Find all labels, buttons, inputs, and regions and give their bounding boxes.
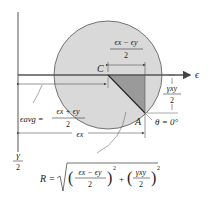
angle-label: θ = 0° (155, 117, 178, 127)
avg-leader (33, 85, 42, 103)
term1-exponent: 2 (113, 165, 116, 171)
formula-lhs: R = (39, 173, 55, 184)
right-dim-denominator: 2 (170, 96, 174, 105)
top-dim-denominator: 2 (124, 51, 128, 60)
avg-label: ϵavg = (20, 114, 44, 124)
avg-numerator: ϵx + ϵy (57, 107, 80, 116)
right-dim-numerator: γxy (167, 84, 178, 93)
term1-denominator: 2 (88, 180, 92, 189)
paren-open-1: ( (68, 169, 73, 187)
paren-close-2: ) (151, 169, 156, 187)
top-dim-numerator: ϵx − ϵy (115, 38, 138, 47)
mohr-circle-diagram: ϵ ϵx − ϵy 2 C γxy 2 A θ = 0° ϵavg = ϵx +… (0, 0, 214, 199)
radius-formula: R = ( ϵx − ϵy 2 ) 2 + ( γxy 2 ) 2 (39, 163, 160, 191)
term2-denominator: 2 (139, 180, 143, 189)
ex-dim-label: ϵx (77, 130, 84, 139)
term2-numerator: γxy (136, 168, 147, 177)
center-label-c: C (97, 63, 104, 74)
svg-text:R =: R = (39, 173, 55, 184)
angle-leader (146, 114, 152, 120)
plus-sign: + (119, 174, 124, 184)
epsilon-axis-label: ϵ (195, 69, 200, 80)
term1-numerator: ϵx − ϵy (79, 168, 102, 177)
gamma-axis-numerator: γ (16, 150, 20, 160)
avg-denominator: 2 (66, 120, 70, 129)
gamma-axis-denominator: 2 (16, 163, 20, 172)
paren-open-2: ( (127, 169, 132, 187)
term2-exponent: 2 (157, 165, 160, 171)
point-label-a: A (134, 116, 142, 127)
paren-close-1: ) (107, 169, 112, 187)
